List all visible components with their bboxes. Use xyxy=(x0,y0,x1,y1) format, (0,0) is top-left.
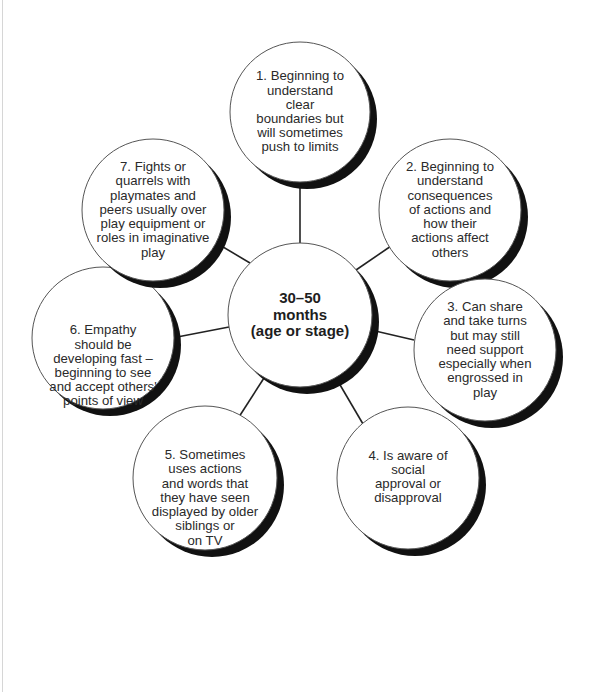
connector-6 xyxy=(172,327,229,338)
node-line: developing fast – xyxy=(53,352,153,366)
node-line: and accept others' xyxy=(49,380,156,394)
node-line: beginning to see xyxy=(55,366,152,380)
node-line: boundaries but xyxy=(256,112,343,126)
node-line: 1. Beginning to xyxy=(256,69,344,83)
node-line: disapproval xyxy=(374,491,441,505)
center-line: months xyxy=(273,307,327,324)
node-line: others xyxy=(432,246,469,260)
node-line: 4. Is aware of xyxy=(368,449,447,463)
node-line: 6. Empathy xyxy=(70,323,137,337)
node-line: clear xyxy=(286,98,315,112)
node-line: roles in imaginative xyxy=(97,231,210,245)
node-line: uses actions xyxy=(168,462,241,476)
node-line: push to limits xyxy=(262,140,339,154)
node-line: playmates and xyxy=(110,189,196,203)
node-line: on TV xyxy=(188,534,223,548)
node-line: 5. Sometimes xyxy=(165,448,246,462)
node-line: understand xyxy=(417,174,483,188)
node-line: consequences xyxy=(407,189,492,203)
node-line: play xyxy=(473,386,497,400)
node-label-7: 7. Fights or quarrels with playmates and… xyxy=(86,158,220,262)
node-line: play equipment or xyxy=(101,217,206,231)
node-label-3: 3. Can share and take turns but may stil… xyxy=(420,298,550,402)
node-label-6: 6. Empathy should be developing fast – b… xyxy=(38,320,168,412)
node-label-4: 4. Is aware of social approval or disapp… xyxy=(343,446,473,508)
node-line: points of view xyxy=(63,394,143,408)
node-line: and take turns xyxy=(443,314,527,328)
node-line: play xyxy=(141,246,165,260)
node-line: but may still xyxy=(450,329,520,343)
node-label-5: 5. Sometimes uses actions and words that… xyxy=(138,446,272,550)
center-line: 30–50 xyxy=(279,290,321,307)
node-line: and words that xyxy=(162,477,249,491)
node-line: especially when xyxy=(438,357,531,371)
node-line: they have seen xyxy=(160,491,249,505)
node-line: 7. Fights or xyxy=(120,160,186,174)
center-label: 30–50 months (age or stage) xyxy=(230,270,370,360)
center-line: (age or stage) xyxy=(251,323,349,340)
node-line: 2. Beginning to xyxy=(406,160,494,174)
node-line: engrossed in xyxy=(447,371,523,385)
node-line: should be xyxy=(74,338,131,352)
node-line: need support xyxy=(447,343,524,357)
node-line: displayed by older xyxy=(152,505,258,519)
connector-5 xyxy=(237,378,264,420)
node-line: understand xyxy=(267,84,333,98)
node-line: peers usually over xyxy=(99,203,206,217)
node-line: social xyxy=(391,463,425,477)
node-label-2: 2. Beginning to understand consequences … xyxy=(385,158,515,262)
node-line: of actions and xyxy=(409,203,491,217)
node-line: 3. Can share xyxy=(447,300,523,314)
node-line: quarrels with xyxy=(116,174,191,188)
node-label-1: 1. Beginning to understand clear boundar… xyxy=(235,66,365,158)
node-line: will sometimes xyxy=(257,126,343,140)
node-line: approval or xyxy=(375,477,441,491)
node-line: siblings or xyxy=(175,519,234,533)
node-line: how their xyxy=(423,217,477,231)
node-line: actions affect xyxy=(411,231,488,245)
